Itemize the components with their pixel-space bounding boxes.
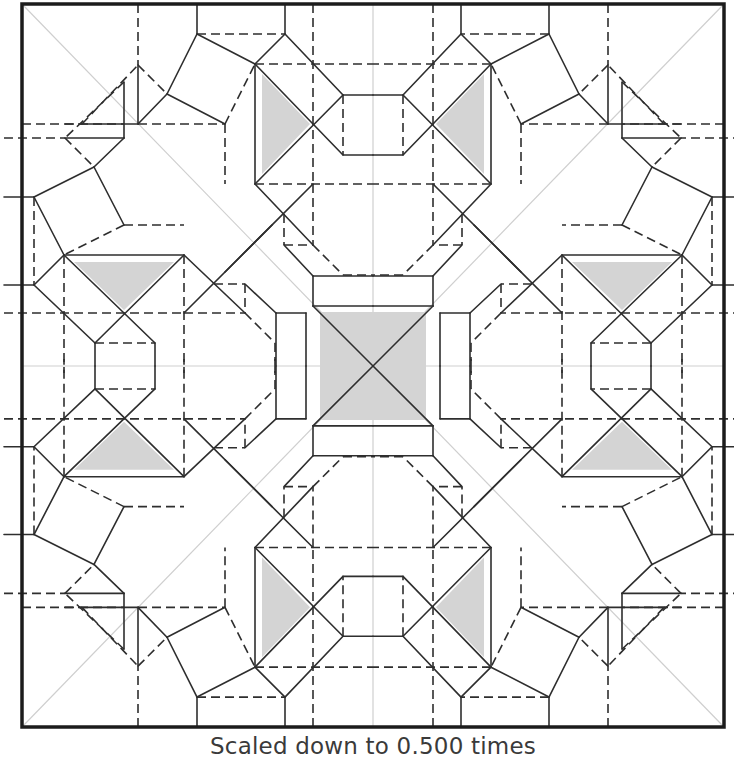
crease-pattern-diagram (0, 0, 734, 735)
mountain-fold-line (433, 245, 462, 276)
valley-fold-line (471, 313, 501, 343)
mountain-fold-line (34, 285, 95, 343)
mountain-fold-line (34, 535, 94, 565)
mountain-fold-line (651, 389, 712, 447)
mountain-fold-line (491, 34, 549, 64)
mountain-fold-line (34, 477, 64, 535)
valley-fold-line (65, 564, 94, 593)
mountain-fold-line (521, 94, 579, 124)
mountain-fold-line (461, 667, 491, 697)
mountain-fold-line (622, 138, 652, 167)
mountain-fold-line (255, 667, 285, 697)
mountain-fold-line (403, 636, 461, 697)
mountain-fold-line (167, 94, 225, 124)
valley-fold-line (622, 225, 682, 255)
valley-fold-line (313, 245, 343, 275)
mountain-fold-line (682, 447, 712, 477)
mountain-fold-line (579, 94, 608, 124)
mountain-fold-line (491, 667, 549, 697)
mountain-fold-line (284, 456, 313, 487)
mountain-fold-line (34, 167, 94, 197)
shaded-triangle (74, 262, 174, 310)
mountain-fold-line (622, 167, 652, 225)
valley-fold-line (403, 245, 433, 275)
valley-fold-line (491, 607, 521, 667)
shaded-triangle (436, 557, 484, 657)
mountain-fold-line (184, 419, 272, 507)
mountain-fold-line (470, 419, 501, 448)
mountain-fold-line (652, 535, 712, 565)
mountain-fold-line (184, 225, 272, 313)
mountain-fold-line (652, 167, 712, 197)
mountain-fold-line (622, 564, 652, 593)
mountain-fold-line (245, 419, 276, 448)
valley-fold-line (245, 389, 275, 419)
scale-caption: Scaled down to 0.500 times (0, 733, 734, 759)
mountain-fold-line (682, 197, 712, 255)
mountain-fold-line (167, 34, 197, 94)
valley-fold-line (579, 65, 608, 94)
mountain-fold-line (549, 34, 579, 94)
valley-fold-line (138, 637, 167, 666)
valley-fold-line (138, 65, 167, 94)
valley-fold-line (403, 457, 433, 487)
mountain-fold-line (579, 607, 608, 637)
mountain-fold-line (470, 284, 501, 313)
mountain-fold-line (285, 636, 343, 697)
mountain-fold-line (167, 607, 225, 637)
mountain-fold-line (474, 419, 562, 507)
mountain-fold-line (197, 667, 255, 697)
mountain-fold-line (682, 255, 712, 285)
mountain-fold-line (94, 138, 124, 167)
valley-fold-line (652, 564, 681, 593)
mountain-fold-line (682, 477, 712, 535)
mountain-fold-line (94, 167, 124, 225)
mountain-fold-line (34, 389, 95, 447)
mountain-fold-line (197, 34, 255, 64)
mountain-fold-line (433, 456, 462, 487)
valley-fold-line (579, 637, 608, 666)
mountain-fold-line (255, 34, 285, 64)
valley-fold-line (225, 64, 255, 124)
mountain-fold-line (461, 34, 491, 64)
mountain-fold-line (94, 507, 124, 565)
shaded-triangle (572, 422, 672, 470)
mountain-fold-line (34, 255, 64, 285)
valley-fold-line (64, 477, 124, 507)
valley-fold-line (65, 138, 94, 167)
mountain-fold-line (285, 34, 343, 95)
mountain-fold-line (94, 564, 124, 593)
mountain-fold-line (651, 285, 712, 343)
valley-fold-line (225, 607, 255, 667)
mountain-fold-line (284, 245, 313, 276)
valley-fold-line (313, 457, 343, 487)
mountain-fold-line (138, 94, 167, 124)
mountain-fold-line (474, 225, 562, 313)
mountain-fold-line (622, 507, 652, 565)
mountain-fold-line (167, 637, 197, 697)
valley-fold-line (245, 313, 275, 343)
shaded-triangle (262, 557, 310, 657)
mountain-fold-line (521, 607, 579, 637)
mountain-fold-line (34, 197, 64, 255)
valley-fold-line (64, 225, 124, 255)
mountain-fold-line (138, 607, 167, 637)
shaded-triangle (262, 74, 310, 174)
valley-fold-line (652, 138, 681, 167)
shaded-triangle (74, 422, 174, 470)
shaded-triangle (572, 262, 672, 310)
valley-fold-line (622, 477, 682, 507)
valley-fold-line (491, 64, 521, 124)
mountain-fold-line (245, 284, 276, 313)
mountain-fold-line (549, 637, 579, 697)
mountain-fold-line (34, 447, 64, 477)
mountain-fold-line (403, 34, 461, 95)
valley-fold-line (471, 389, 501, 419)
shaded-triangle (436, 74, 484, 174)
